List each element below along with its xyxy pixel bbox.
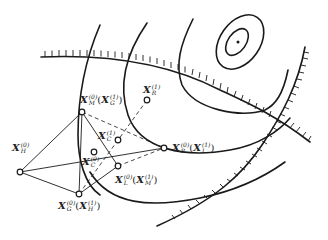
label-base: X [98,130,106,141]
label-base: X [58,200,66,211]
label-sub: L [124,180,133,186]
label-sub: R [181,148,190,154]
label-alt-base: X [79,200,87,211]
label-alt-base: X [101,94,109,105]
label-scripts: (0)G [67,200,76,212]
label-XH0: X(0)H [12,142,29,154]
optimum-point [237,41,240,44]
point-XR0 [161,145,167,151]
label-scripts: (0)C [91,156,100,168]
label-base: X [115,174,123,185]
label-sub: R [152,90,161,96]
diagram-canvas: X(0)H X(0)M(X(1)G) X(1)R X(1)C X(0)R(X(1… [0,0,328,240]
label-scripts: (0)H [21,142,30,154]
point-XR1 [144,97,150,103]
label-sub: H [21,148,30,154]
label-XR1: X(1)R [143,84,160,96]
edge-L-R-dashed [118,148,164,166]
label-base: X [172,142,180,153]
label-sub: G [67,206,76,212]
label-XC1: X(1)C [98,130,115,142]
label-XR0: X(0)R(X(1)L) [172,142,214,154]
label-sub: C [107,136,116,142]
edge-G-L [79,166,118,194]
label-XL0: X(0)L(X(1)M) [115,174,157,186]
label-scripts: (0)R [181,142,190,154]
point-XG0 [76,191,82,197]
label-scripts: (1)C [107,130,116,142]
point-XC1 [115,137,121,143]
label-XC0: X(0)C [82,156,99,168]
label-sub: M [89,100,98,106]
label-scripts: (1)R [152,84,161,96]
point-XH0 [17,169,23,175]
label-base: X [143,84,151,95]
point-XM0 [79,109,85,115]
label-scripts: (0)L [124,174,133,186]
label-sub: C [91,162,100,168]
label-XG0: X(0)G(X(1)H) [58,200,100,212]
contour-ellipse-outer [206,6,273,78]
point-XL0 [115,163,121,169]
edge-H-G [20,172,79,194]
label-XM0: X(0)M(X(1)G) [80,94,122,106]
point-XC0 [91,149,97,155]
label-base: X [82,156,90,167]
label-alt-base: X [136,174,144,185]
label-base: X [80,94,88,105]
label-alt-base: X [193,142,201,153]
label-base: X [12,142,20,153]
diagram-svg [0,0,328,240]
label-scripts: (0)M [89,94,98,106]
